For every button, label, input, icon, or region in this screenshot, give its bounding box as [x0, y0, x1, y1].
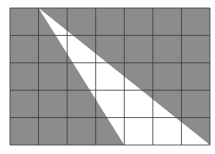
grid-diagram — [0, 0, 215, 154]
